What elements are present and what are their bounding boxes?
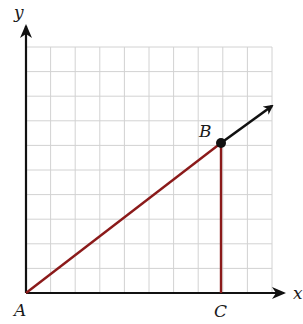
label-y-axis: y — [13, 2, 24, 22]
label-point-a: A — [12, 300, 26, 320]
segment-ab — [26, 143, 221, 293]
label-x-axis: x — [293, 283, 303, 303]
label-point-b: B — [198, 121, 212, 141]
label-point-c: C — [214, 301, 227, 321]
grid-lines — [26, 47, 272, 293]
ray-arrow — [221, 106, 272, 143]
coordinate-diagram: y x A B C — [0, 0, 303, 324]
point-b — [216, 138, 226, 148]
